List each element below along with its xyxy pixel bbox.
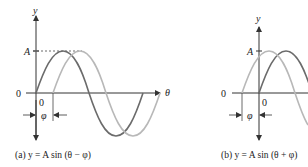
panel-a: y A 0 0 φ θ (a) y = A sin (θ − φ) (15, 5, 170, 161)
phase-shift-diagram: y A 0 0 φ θ (a) y = A sin (θ − φ) y A 0 … (0, 0, 308, 167)
panel-b: y A 0 0 φ (b) y = A sin (θ + φ) (221, 13, 308, 161)
y-axis-label-a: y (32, 5, 38, 16)
caption-b: (b) y = A sin (θ + φ) (221, 150, 297, 161)
origin-label-left-b: 0 (221, 88, 226, 99)
origin-label-below-b: 0 (262, 97, 267, 108)
curve-sin-dark-b (259, 51, 308, 93)
phase-label-a: φ (41, 110, 47, 121)
amplitude-label-b: A (246, 46, 254, 57)
origin-label-below-a: 0 (39, 97, 44, 108)
amplitude-label-a: A (23, 46, 31, 57)
origin-label-left-a: 0 (16, 88, 21, 99)
y-axis-label-b: y (255, 13, 261, 24)
caption-a: (a) y = A sin (θ − φ) (15, 150, 91, 161)
x-axis-label-a: θ (165, 87, 170, 98)
phase-label-b: φ (247, 110, 253, 121)
